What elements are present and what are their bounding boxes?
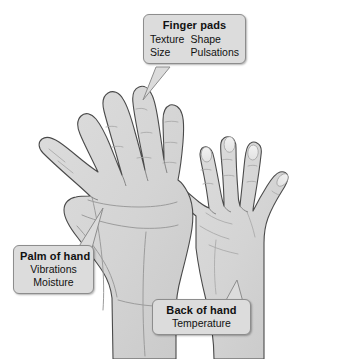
callout-back-of-hand[interactable]: Back of hand Temperature (152, 299, 251, 335)
callout-back-title: Back of hand (159, 303, 244, 317)
callout-finger-pads-col-right: Shape Pulsations (191, 33, 239, 59)
callout-finger-pads-items: Texture Size Shape Pulsations (150, 33, 239, 59)
callout-finger-pads-col-left: Texture Size (150, 33, 191, 59)
callout-finger-pads-item-pulsations: Pulsations (191, 46, 239, 59)
callout-palm-item-vibrations: Vibrations (20, 263, 87, 276)
callout-finger-pads-item-shape: Shape (191, 33, 239, 46)
hand-sensory-diagram: Finger pads Texture Size Shape Pulsation… (0, 0, 346, 359)
fingernail-middle (224, 137, 235, 153)
callout-finger-pads-item-texture: Texture (150, 33, 191, 46)
callout-back-item-temperature: Temperature (159, 317, 244, 330)
callout-palm-item-moisture: Moisture (20, 276, 87, 289)
callout-finger-pads-title: Finger pads (150, 18, 239, 32)
callout-palm-of-hand[interactable]: Palm of hand Vibrations Moisture (13, 245, 94, 294)
callout-finger-pads-item-size: Size (150, 46, 191, 59)
callout-palm-title: Palm of hand (20, 249, 87, 263)
callout-finger-pads[interactable]: Finger pads Texture Size Shape Pulsation… (143, 14, 246, 64)
